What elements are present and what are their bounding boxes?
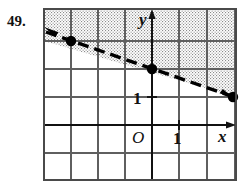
graph-figure: 49. <box>0 0 250 191</box>
coordinate-graph: y 1 O 1 x <box>0 0 250 191</box>
y-unit-label: 1 <box>133 89 142 108</box>
point-a <box>66 36 76 46</box>
y-axis-label: y <box>137 10 147 29</box>
origin-label: O <box>132 128 144 147</box>
x-unit-label: 1 <box>173 129 182 148</box>
x-axis-label: x <box>217 127 227 146</box>
problem-number: 49. <box>7 14 26 29</box>
point-b <box>147 64 157 74</box>
